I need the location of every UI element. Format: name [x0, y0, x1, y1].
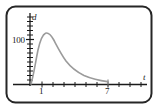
- x-tick-label-7: 7: [105, 87, 110, 96]
- x-axis-label: t: [143, 73, 146, 82]
- concentration-curve: [31, 33, 108, 84]
- y-axis-label: d: [32, 13, 37, 22]
- plot-area: [0, 0, 158, 109]
- y-axis-minor-ticks: [26, 17, 34, 80]
- x-tick-label-1: 1: [39, 87, 44, 96]
- y-tick-label-100: 100: [12, 36, 25, 45]
- figure-container: d t 100 1 7: [0, 0, 158, 109]
